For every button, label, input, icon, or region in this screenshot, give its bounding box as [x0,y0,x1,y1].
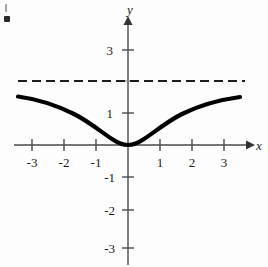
y-tick-label-3: 3 [107,43,114,58]
x-tick-label--3: -3 [27,155,38,170]
x-axis-label: x [255,138,262,153]
y-axis-label: y [125,2,133,17]
y-tick-label--1: -1 [104,170,115,185]
corner-edge-mark [5,4,7,12]
x-tick-label--1: -1 [91,155,102,170]
y-tick-label-1: 1 [107,106,114,121]
x-tick-label-3: 3 [221,155,228,170]
corner-bullet-mark [4,16,10,22]
x-tick-label-2: 2 [189,155,196,170]
x-tick-label-1: 1 [157,155,164,170]
y-tick-label--3: -3 [104,241,115,256]
function-curve [18,97,240,146]
y-axis-arrow-icon [124,16,133,25]
x-tick-label--2: -2 [59,155,70,170]
graph-figure: -3 -2 -1 1 2 3 3 1 -1 -2 -3 x y [0,0,268,267]
figure-page: -3 -2 -1 1 2 3 3 1 -1 -2 -3 x y [0,0,268,267]
x-axis-arrow-icon [246,141,255,150]
y-tick-label--2: -2 [104,203,115,218]
